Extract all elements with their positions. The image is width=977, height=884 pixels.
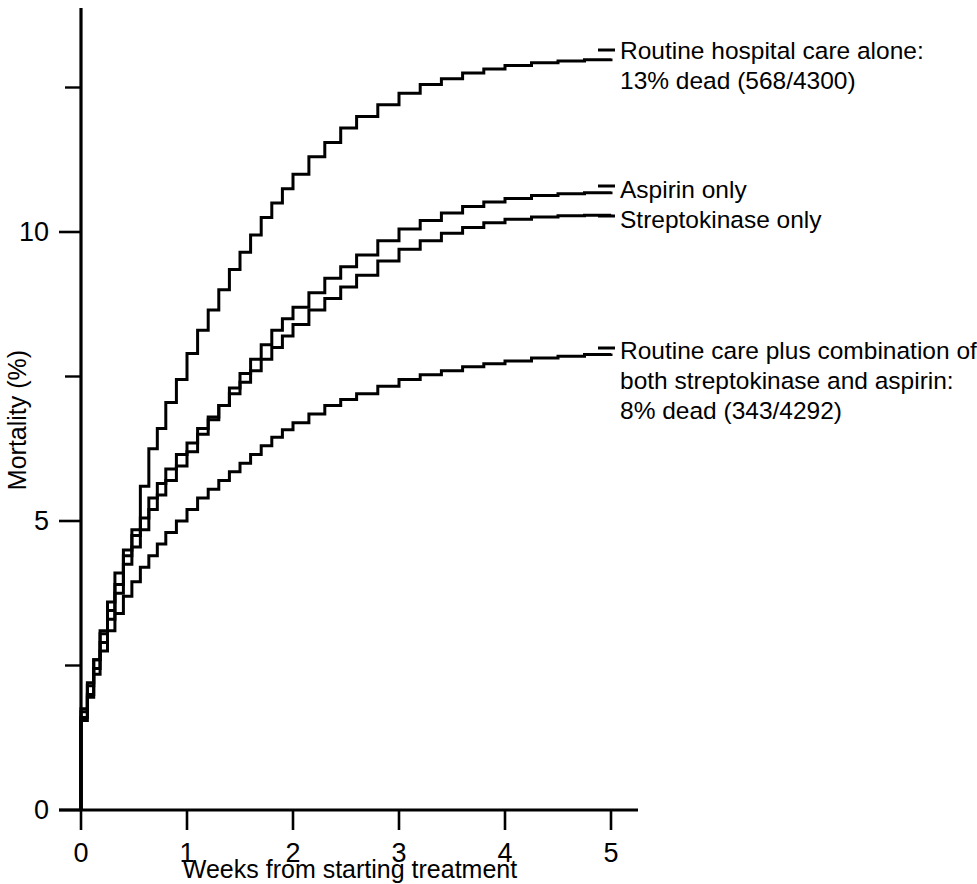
annotation-leader-lines <box>598 50 615 348</box>
annotation-line: 8% dead (343/4292) <box>620 397 842 424</box>
curve-series-1 <box>81 192 611 810</box>
y-tick-label: 10 <box>19 217 49 247</box>
annotation-routine-hospital-care-alone: Routine hospital care alone:13% dead (56… <box>620 36 924 96</box>
curve-series-group <box>81 59 611 810</box>
annotation-line: Routine care plus combination of <box>620 337 977 364</box>
annotation-aspirin-only: Aspirin only <box>620 175 747 205</box>
x-tick-label: 5 <box>603 838 618 868</box>
annotation-line: both streptokinase and aspirin: <box>620 367 954 394</box>
y-axis-title: Mortality (%) <box>3 350 31 490</box>
curve-series-0 <box>81 59 611 810</box>
annotation-line: Streptokinase only <box>620 206 822 233</box>
x-axis-title: Weeks from starting treatment <box>183 855 517 883</box>
annotation-streptokinase-only: Streptokinase only <box>620 205 822 235</box>
curve-series-2 <box>81 215 611 810</box>
curve-series-3 <box>81 353 611 810</box>
annotation-line: Routine hospital care alone: <box>620 37 924 64</box>
y-tick-label: 5 <box>34 506 49 536</box>
annotation-combination-therapy: Routine care plus combination ofboth str… <box>620 336 977 426</box>
x-axis <box>59 810 638 830</box>
y-tick-label: 0 <box>34 795 49 825</box>
annotation-line: Aspirin only <box>620 176 747 203</box>
annotation-line: 13% dead (568/4300) <box>620 67 856 94</box>
tick-labels: 0510012345 <box>19 217 619 868</box>
y-axis <box>59 8 81 810</box>
x-tick-label: 0 <box>73 838 88 868</box>
